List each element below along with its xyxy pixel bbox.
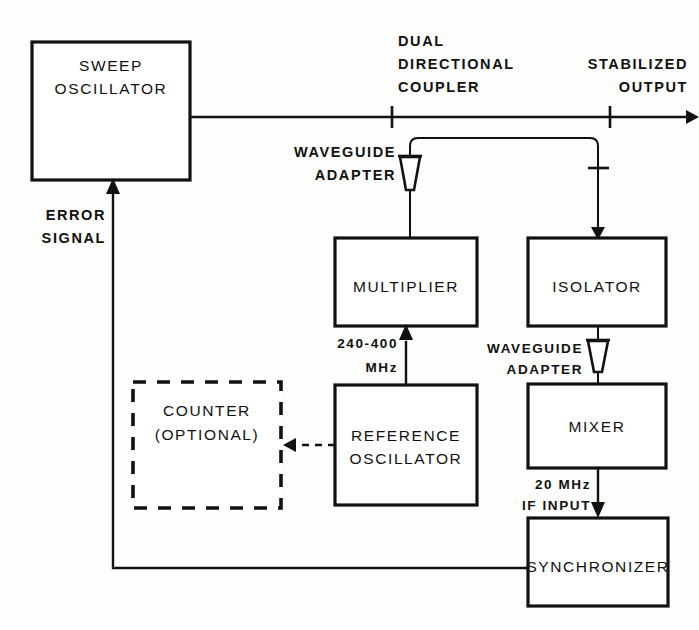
block-diagram-canvas: SWEEP OSCILLATOR MULTIPLIER ISOLATOR MIX… [0, 0, 699, 630]
schematic-svg: SWEEP OSCILLATOR MULTIPLIER ISOLATOR MIX… [0, 0, 699, 630]
wire-coupler-secondary-loop [410, 138, 598, 232]
block-label-mixer: MIXER [568, 418, 625, 435]
block-label-counter-line2: (OPTIONAL) [155, 426, 260, 443]
annotation-multiplier-input-line1: 240-400 [337, 336, 398, 351]
block-counter-optional[interactable] [133, 382, 281, 508]
annotation-waveguide-adapter-mid-line2: ADAPTER [507, 362, 583, 377]
annotation-coupler-line2: DIRECTIONAL [398, 56, 515, 72]
block-reference-oscillator[interactable] [335, 385, 477, 505]
block-label-reference-oscillator-line1: REFERENCE [351, 427, 461, 444]
block-label-counter-line1: COUNTER [163, 402, 251, 419]
annotation-waveguide-adapter-mid-line1: WAVEGUIDE [487, 341, 583, 356]
annotation-waveguide-adapter-top-line1: WAVEGUIDE [294, 144, 396, 160]
arrowhead-stabilized-output [686, 110, 699, 124]
block-label-multiplier: MULTIPLIER [353, 278, 459, 295]
annotation-error-signal-line2: SIGNAL [42, 230, 106, 246]
arrowhead-counter-input [283, 438, 296, 452]
annotation-multiplier-input-line2: MHz [365, 360, 398, 375]
annotation-stabilized-output-line2: OUTPUT [619, 79, 688, 95]
annotation-coupler-line3: COUPLER [398, 79, 480, 95]
block-label-reference-oscillator-line2: OSCILLATOR [350, 450, 463, 467]
block-label-synchronizer: SYNCHRONIZER [526, 558, 669, 575]
block-label-sweep-oscillator-line2: OSCILLATOR [55, 80, 168, 97]
annotation-if-input-line1: 20 MHz [535, 477, 591, 492]
annotation-coupler-line1: DUAL [398, 33, 445, 49]
annotation-waveguide-adapter-top-line2: ADAPTER [315, 167, 396, 183]
block-label-isolator: ISOLATOR [552, 278, 642, 295]
annotation-stabilized-output-line1: STABILIZED [588, 56, 688, 72]
waveguide-adapter-mid-icon [588, 341, 608, 372]
arrowhead-if-input [591, 502, 605, 518]
waveguide-adapter-top-icon [400, 157, 420, 190]
block-label-sweep-oscillator-line1: SWEEP [79, 57, 143, 74]
annotation-if-input-line2: IF INPUT [522, 498, 591, 513]
annotation-error-signal-line1: ERROR [46, 207, 106, 223]
